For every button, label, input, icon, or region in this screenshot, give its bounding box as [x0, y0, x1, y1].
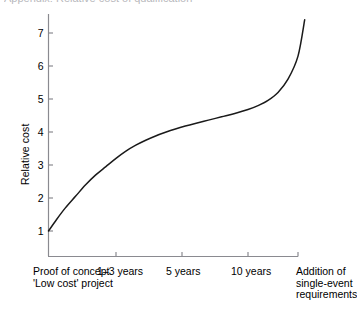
- x-tick-label: Addition of single-event requirements: [296, 266, 357, 301]
- x-ticks-group: [116, 252, 298, 257]
- y-tick-label: 3: [30, 160, 44, 171]
- y-tick-label: 4: [30, 127, 44, 138]
- y-tick-label: 2: [30, 193, 44, 204]
- data-curve-relative-cost: [49, 20, 305, 231]
- y-tick-label: 6: [30, 61, 44, 72]
- y-tick-label: 5: [30, 94, 44, 105]
- x-tick-label: 1–3 years: [97, 266, 143, 278]
- y-tick-label: 1: [30, 226, 44, 237]
- axes-group: [48, 14, 298, 257]
- x-tick-label: 10 years: [231, 266, 271, 278]
- y-ticks-group: [49, 33, 54, 231]
- x-tick-label: 5 years: [166, 266, 200, 278]
- y-tick-label: 7: [30, 28, 44, 39]
- y-axis-title: Relative cost: [19, 104, 33, 204]
